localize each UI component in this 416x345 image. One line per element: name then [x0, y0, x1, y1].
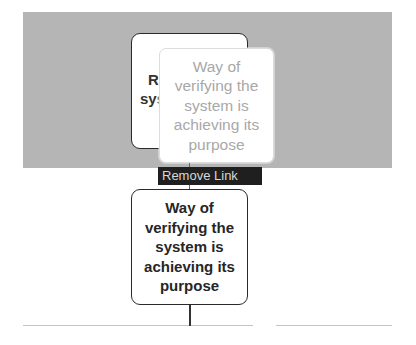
ghost-line-2: verifying the [174, 76, 259, 96]
main-node-text: Way of verifying the system is achieving… [138, 198, 241, 296]
dragged-node-ghost[interactable]: Way of verifying the system is achieving… [159, 48, 274, 163]
horizontal-connector-left [23, 325, 253, 326]
ghost-line-4: achieving its [174, 115, 259, 135]
main-line-2: verifying the [144, 218, 235, 238]
remove-link-button[interactable]: Remove Link [158, 167, 262, 185]
horizontal-connector-right [276, 325, 392, 326]
diagram-canvas[interactable]: R sys Way of verifying the system is ach… [0, 0, 416, 345]
ghost-node-text: Way of verifying the system is achieving… [168, 57, 265, 155]
main-line-5: purpose [144, 276, 235, 296]
main-node[interactable]: Way of verifying the system is achieving… [131, 189, 248, 305]
ghost-line-5: purpose [174, 135, 259, 155]
node-down-connector [189, 305, 191, 326]
ghost-line-1: Way of [174, 57, 259, 77]
main-line-4: achieving its [144, 257, 235, 277]
main-line-1: Way of [144, 198, 235, 218]
ghost-line-3: system is [174, 96, 259, 116]
main-line-3: system is [144, 237, 235, 257]
